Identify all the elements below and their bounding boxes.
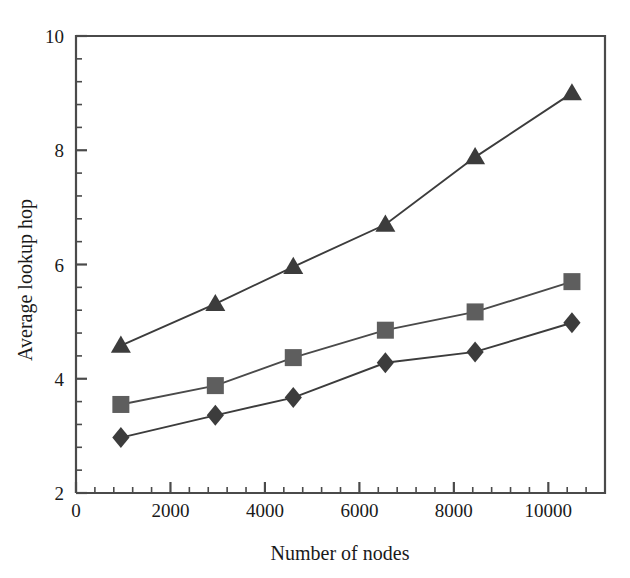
square-data-point [112,396,129,413]
x-tick-label: 4000 [246,500,284,521]
x-tick-label: 10000 [525,500,573,521]
x-tick-label: 6000 [340,500,378,521]
y-tick-label: 10 [45,26,64,47]
x-tick-label: 8000 [435,500,473,521]
square-data-point [207,377,224,394]
average-lookup-hop-line-chart: 246810 0200040006000800010000 Number of … [0,0,630,578]
chart-container: 246810 0200040006000800010000 Number of … [0,0,630,578]
y-axis-title: Average lookup hop [14,199,37,361]
x-tick-label: 2000 [151,500,189,521]
y-tick-label: 8 [55,140,65,161]
y-tick-label: 6 [55,255,65,276]
x-axis-title: Number of nodes [271,542,410,564]
square-data-point [467,303,484,320]
y-tick-label: 4 [55,369,65,390]
square-data-point [285,349,302,366]
square-data-point [377,322,394,339]
x-tick-label: 0 [71,500,81,521]
y-tick-label: 2 [55,483,65,504]
square-data-point [563,273,580,290]
